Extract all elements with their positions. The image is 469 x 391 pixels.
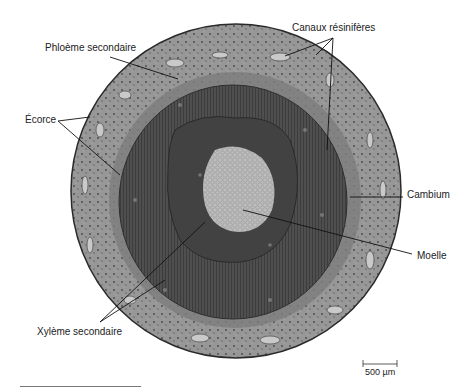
label-cortex: Écorce — [25, 115, 56, 125]
label-resin-canals: Canaux résinifères — [292, 23, 375, 33]
scale-bar — [363, 360, 397, 367]
label-cambium: Cambium — [407, 190, 450, 200]
scale-bar-label: 500 µm — [365, 367, 395, 377]
label-secondary-xylem: Xylème secondaire — [37, 327, 122, 337]
bottom-divider — [20, 386, 141, 387]
label-pith: Moelle — [417, 251, 446, 261]
stem-cross-section-figure: Canaux résinifères Phloème secondaire Éc… — [0, 0, 469, 391]
label-secondary-phloem: Phloème secondaire — [45, 43, 136, 53]
